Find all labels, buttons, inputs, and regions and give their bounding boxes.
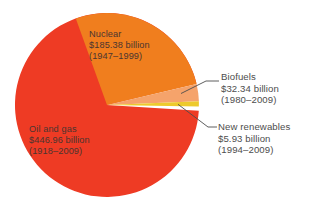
slice-label-nuclear-period: (1947–1999) (89, 51, 150, 62)
slice-label-nuclear-amount: $185.38 billion (89, 40, 150, 51)
slice-label-biofuels-name: Biofuels (221, 71, 279, 83)
slice-label-biofuels-amount: $32.34 billion (221, 83, 279, 95)
slice-label-oil-and-gas-amount: $446.96 billion (29, 135, 90, 146)
slice-label-new-renewables: New renewables $5.93 billion (1994–2009) (218, 121, 290, 156)
slice-label-oil-and-gas-period: (1918–2009) (29, 146, 90, 157)
slice-label-oil-and-gas-name: Oil and gas (29, 124, 90, 135)
slice-label-biofuels: Biofuels $32.34 billion (1980–2009) (221, 71, 279, 106)
slice-label-biofuels-period: (1980–2009) (221, 94, 279, 106)
slice-label-nuclear: Nuclear $185.38 billion (1947–1999) (89, 29, 150, 63)
slice-label-nuclear-name: Nuclear (89, 29, 150, 40)
pie-chart-svg (0, 0, 320, 214)
slice-label-new-renewables-period: (1994–2009) (218, 144, 290, 156)
slice-label-new-renewables-amount: $5.93 billion (218, 133, 290, 145)
pie-chart-figure: Nuclear $185.38 billion (1947–1999) Oil … (0, 0, 320, 214)
slice-label-new-renewables-name: New renewables (218, 121, 290, 133)
slice-label-oil-and-gas: Oil and gas $446.96 billion (1918–2009) (29, 124, 90, 158)
